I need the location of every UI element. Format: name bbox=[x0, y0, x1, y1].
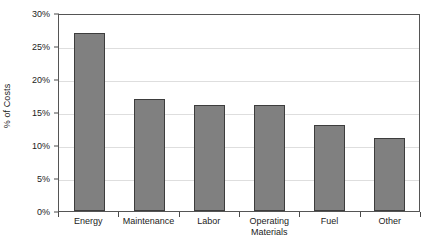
y-axis-tick-label: 10% bbox=[32, 141, 50, 151]
x-axis-tick-label: Fuel bbox=[299, 216, 359, 250]
bar-slot bbox=[299, 15, 359, 211]
y-axis-tick-label: 15% bbox=[32, 108, 50, 118]
y-axis-tick-label: 5% bbox=[37, 174, 50, 184]
bar-slot bbox=[179, 15, 239, 211]
bar-slot bbox=[239, 15, 299, 211]
bar bbox=[254, 105, 285, 211]
x-axis-tick-label: Energy bbox=[58, 216, 118, 250]
x-axis-tick-label: Labor bbox=[179, 216, 239, 250]
bar bbox=[314, 125, 345, 211]
x-axis-tick-label-line: Energy bbox=[74, 216, 103, 226]
x-axis-tick-label-line: Materials bbox=[239, 227, 299, 238]
x-axis-tick-label-line: Maintenance bbox=[123, 216, 175, 226]
y-axis-tick-label: 30% bbox=[32, 9, 50, 19]
y-axis-title-text: % of Costs bbox=[2, 84, 12, 129]
x-axis-tick-label-line: Labor bbox=[197, 216, 220, 226]
x-axis-tick-label: Maintenance bbox=[118, 216, 178, 250]
x-axis-tick-mark bbox=[420, 212, 421, 217]
x-axis-tick-label-line: Other bbox=[379, 216, 402, 226]
y-axis-tick-label: 0% bbox=[37, 207, 50, 217]
y-axis-tick-labels: 0%5%10%15%20%25%30% bbox=[16, 14, 54, 212]
bar-chart: % of Costs 0%5%10%15%20%25%30% EnergyMai… bbox=[0, 0, 436, 252]
x-axis-tick-label-line: Operating bbox=[249, 216, 289, 226]
x-axis-tick-labels: EnergyMaintenanceLaborOperatingMaterials… bbox=[58, 216, 420, 250]
bar-slot bbox=[59, 15, 119, 211]
x-axis-tick-label: OperatingMaterials bbox=[239, 216, 299, 250]
bar bbox=[134, 99, 165, 211]
bar bbox=[74, 33, 105, 211]
bar-slot bbox=[119, 15, 179, 211]
x-axis-tick-label-line: Fuel bbox=[321, 216, 339, 226]
bar bbox=[374, 138, 405, 211]
y-axis-tick-label: 25% bbox=[32, 42, 50, 52]
y-axis-title: % of Costs bbox=[0, 0, 14, 212]
y-axis-tick-label: 20% bbox=[32, 75, 50, 85]
bars-layer bbox=[59, 15, 419, 211]
plot-area bbox=[58, 14, 420, 212]
x-axis-tick-label: Other bbox=[360, 216, 420, 250]
bar bbox=[194, 105, 225, 211]
bar-slot bbox=[359, 15, 419, 211]
